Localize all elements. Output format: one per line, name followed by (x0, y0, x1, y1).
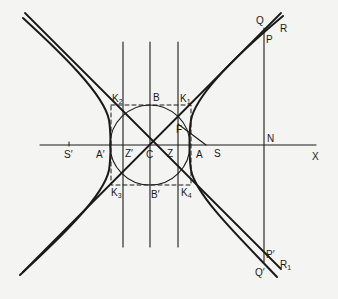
label-b-prime: B′ (151, 189, 160, 200)
hyperbola-diagram: Q R P K2 B K1 F N S′ A′ Z′ C Z A S X K3 … (0, 0, 338, 299)
label-z-prime: Z′ (125, 148, 133, 159)
label-a: A (196, 149, 203, 160)
label-z: Z (167, 148, 173, 159)
label-k4: K4 (181, 187, 192, 199)
label-s: S (214, 148, 221, 159)
label-q: Q (256, 15, 264, 26)
label-x: X (312, 151, 319, 162)
label-f: F (176, 124, 182, 135)
line-f-to-s (178, 124, 206, 145)
label-p-prime: P′ (266, 249, 275, 260)
label-q-prime: Q′ (255, 267, 265, 278)
label-k1: K1 (180, 93, 191, 105)
label-a-prime: A′ (96, 149, 105, 160)
hyperbola-left-branch (20, 18, 111, 275)
label-k2: K2 (112, 93, 123, 105)
label-b: B (153, 92, 160, 103)
hyperbola-right-branch (190, 16, 284, 277)
label-s-prime: S′ (64, 149, 73, 160)
label-c: C (146, 149, 153, 160)
label-r: R (280, 23, 287, 34)
label-p: P (266, 34, 273, 45)
label-n: N (267, 133, 274, 144)
label-k3: K3 (111, 187, 122, 199)
label-r1: R1 (280, 259, 291, 271)
